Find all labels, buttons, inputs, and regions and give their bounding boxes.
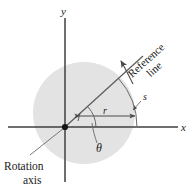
rotation-axis-label-word1: Rotation	[4, 160, 44, 172]
reference-line-label: Reference line	[125, 41, 174, 89]
radius-label: r	[103, 105, 107, 116]
figure-canvas: y x r s θ Reference line	[0, 0, 196, 189]
y-axis-label: y	[60, 5, 66, 17]
angle-label: θ	[96, 141, 102, 155]
rotation-axis-label-word2: axis	[23, 174, 42, 186]
rotation-figure: y x r s θ Reference line	[0, 0, 196, 189]
origin-dot-icon	[62, 124, 68, 130]
rotation-axis-label: Rotation axis	[4, 160, 44, 186]
x-axis-label: x	[180, 121, 186, 133]
arc-length-label: s	[143, 91, 147, 102]
